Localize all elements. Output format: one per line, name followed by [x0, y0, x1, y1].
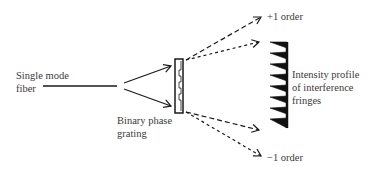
fringe-intensity-profile	[270, 42, 287, 128]
fringes-label-line1: Intensity profile	[292, 68, 359, 81]
plus-one-order-label: +1 order	[267, 10, 303, 23]
fiber-label: Single mode fiber	[16, 69, 69, 95]
plus-order-outer-arrow	[186, 17, 261, 60]
fringes-label: Intensity profile of interference fringe…	[292, 68, 359, 107]
lower-incident-arrow	[124, 89, 171, 106]
fiber-label-line2: fiber	[16, 82, 69, 95]
incident-beams	[124, 66, 171, 106]
grating-label-line1: Binary phase	[117, 114, 172, 127]
fiber-label-line1: Single mode	[16, 69, 69, 82]
minus-order-inner-arrow	[186, 112, 259, 130]
plus-order-inner-arrow	[186, 42, 259, 60]
fringes-label-line2: of interference	[292, 81, 359, 94]
diagram-canvas: Single mode fiber Binary phase grating +…	[0, 0, 376, 170]
grating-label-line2: grating	[117, 127, 172, 140]
diffracted-orders	[186, 17, 261, 156]
minus-order-outer-arrow	[186, 112, 261, 156]
upper-incident-arrow	[124, 66, 171, 83]
grating-label: Binary phase grating	[117, 114, 172, 140]
fringes-label-line3: fringes	[292, 94, 359, 107]
minus-one-order-label: −1 order	[267, 151, 303, 164]
binary-phase-grating	[175, 59, 183, 113]
